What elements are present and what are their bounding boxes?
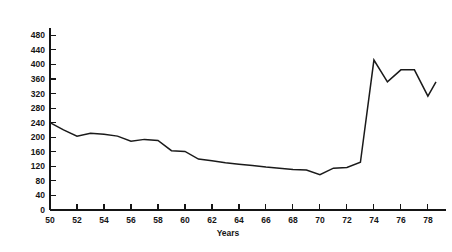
y-tick-label: 280 xyxy=(31,103,45,113)
x-tick-label: 68 xyxy=(288,215,298,225)
y-tick-label: 480 xyxy=(31,30,45,40)
chart-container: 04080120160200240280320360400440480 5052… xyxy=(0,0,452,252)
x-tick-label: 56 xyxy=(126,215,136,225)
x-tick-label: 58 xyxy=(153,215,163,225)
y-tick-label: 120 xyxy=(31,161,45,171)
y-tick-label: 40 xyxy=(36,190,46,200)
x-axis: 505254565860626466687072747678 xyxy=(45,204,446,225)
data-line-series-1 xyxy=(50,60,436,175)
x-tick-label: 52 xyxy=(72,215,82,225)
x-tick-label: 54 xyxy=(99,215,109,225)
x-tick-label: 62 xyxy=(207,215,217,225)
y-axis: 04080120160200240280320360400440480 xyxy=(31,28,56,215)
y-tick-label: 320 xyxy=(31,89,45,99)
x-tick-label: 66 xyxy=(261,215,271,225)
line-chart: 04080120160200240280320360400440480 5052… xyxy=(0,0,452,252)
x-axis-title: Years xyxy=(217,228,240,238)
x-tick-label: 76 xyxy=(396,215,406,225)
x-tick-label: 64 xyxy=(234,215,244,225)
x-tick-label: 60 xyxy=(180,215,190,225)
x-tick-label: 78 xyxy=(423,215,433,225)
x-tick-label: 72 xyxy=(342,215,352,225)
y-tick-label: 200 xyxy=(31,132,45,142)
x-tick-label: 74 xyxy=(369,215,379,225)
y-tick-label: 440 xyxy=(31,45,45,55)
x-tick-label: 50 xyxy=(45,215,55,225)
y-tick-label: 80 xyxy=(36,176,46,186)
y-tick-label: 0 xyxy=(40,205,45,215)
y-tick-label: 360 xyxy=(31,74,45,84)
x-tick-label: 70 xyxy=(315,215,325,225)
data-series-group xyxy=(50,60,436,175)
y-tick-label: 160 xyxy=(31,147,45,157)
y-tick-label: 400 xyxy=(31,59,45,69)
y-tick-label: 240 xyxy=(31,118,45,128)
